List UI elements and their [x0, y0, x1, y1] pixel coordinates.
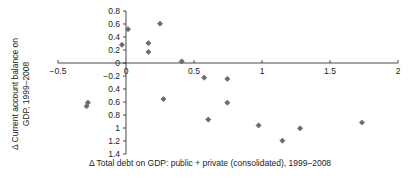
x-tick-label: −0.5 — [50, 67, 67, 76]
data-point-marker — [225, 76, 230, 81]
y-tick-label: 1 — [88, 124, 120, 133]
x-tick-label: 1.5 — [324, 67, 336, 76]
x-tick-label: 1 — [260, 67, 265, 76]
y-tick-label: 0 — [88, 59, 120, 68]
data-point-marker — [206, 117, 211, 122]
x-tick-label: 0 — [124, 67, 129, 76]
y-tick-label: 0.4 — [88, 33, 120, 42]
data-point-marker — [359, 120, 364, 125]
data-point-marker — [256, 123, 261, 128]
y-tick-label: 0.8 — [88, 7, 120, 16]
y-tick-label: 0.2 — [88, 46, 120, 55]
data-point-marker — [297, 126, 302, 131]
y-tick-label: 0.6 — [88, 20, 120, 29]
y-axis-title-line-2: GDP, 1999–2008 — [21, 38, 32, 150]
scatter-chart-figure: 0.80.60.40.20−0.20.40.60.811.21.4 −0.500… — [0, 0, 420, 178]
y-tick-label: 0.8 — [88, 111, 120, 120]
data-point-marker — [157, 21, 162, 26]
plot-area — [0, 0, 420, 178]
data-point-marker — [202, 75, 207, 80]
data-point-marker — [119, 42, 124, 47]
x-tick-label: 0.5 — [188, 67, 200, 76]
y-axis-title: Δ Current account balance on GDP, 1999–2… — [10, 38, 32, 150]
x-axis-title: Δ Total debt on GDP: public + private (c… — [0, 158, 420, 168]
data-point-marker — [161, 96, 166, 101]
y-tick-label: 0.4 — [88, 85, 120, 94]
y-tick-label: 1.2 — [88, 137, 120, 146]
x-tick-label: 2 — [396, 67, 401, 76]
y-tick-label: −0.2 — [88, 72, 120, 81]
data-point-marker — [146, 41, 151, 46]
y-tick-label: 0.6 — [88, 98, 120, 107]
data-point-marker — [225, 100, 230, 105]
data-point-marker — [146, 49, 151, 54]
y-axis-title-line-1: Δ Current account balance on — [10, 38, 21, 150]
data-point-marker — [280, 138, 285, 143]
